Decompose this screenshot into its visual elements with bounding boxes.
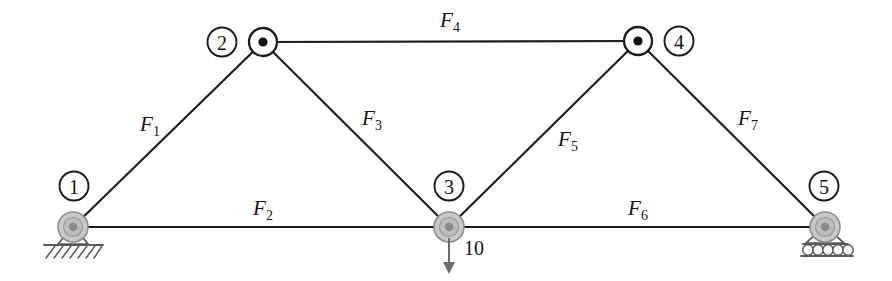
- truss-members: [73, 41, 825, 227]
- node-label-1-text: 1: [69, 176, 79, 198]
- member-label-F6-base: F: [627, 196, 641, 220]
- node-4-joint: [624, 27, 652, 55]
- roller-ball: [813, 245, 823, 255]
- node-label-4: 4: [665, 27, 694, 56]
- member-label-F6-sub: 6: [641, 208, 648, 223]
- node-label-5: 5: [810, 172, 839, 201]
- member-label-F4-base: F: [439, 8, 453, 32]
- member-label-F7: F7: [737, 106, 758, 133]
- node-label-2: 2: [208, 28, 237, 57]
- member-label-F2-base: F: [252, 196, 266, 220]
- roller-ball: [843, 245, 853, 255]
- member-F1: [73, 42, 263, 227]
- member-label-F1-base: F: [139, 112, 153, 136]
- member-label-F2: F2: [252, 196, 273, 223]
- load-magnitude-label: 10: [464, 237, 484, 259]
- node-label-3-text: 3: [444, 176, 454, 198]
- member-label-F2-sub: 2: [266, 208, 273, 223]
- member-label-F7-sub: 7: [751, 118, 758, 133]
- node-label-5-text: 5: [819, 176, 829, 198]
- truss-diagram: 1 2 3 4 5 F1 F2 F3 F4 F5 F6 F7: [0, 0, 892, 281]
- member-label-F6: F6: [627, 196, 648, 223]
- member-F4: [263, 41, 638, 42]
- node-label-1: 1: [60, 172, 89, 201]
- member-label-F5-base: F: [557, 127, 571, 151]
- roller-ball: [823, 245, 833, 255]
- roller-ball: [803, 245, 813, 255]
- member-label-F3-base: F: [361, 106, 375, 130]
- member-label-F5-sub: 5: [571, 139, 578, 154]
- node-label-3: 3: [435, 172, 464, 201]
- node-1-pin-joint: [58, 212, 88, 242]
- member-label-F4: F4: [439, 8, 460, 35]
- node-3-joint: [434, 212, 464, 242]
- load-arrow-head-icon: [443, 262, 455, 274]
- member-F7: [638, 41, 825, 227]
- member-label-F7-base: F: [737, 106, 751, 130]
- member-label-F3: F3: [361, 106, 382, 133]
- node-5-roller-joint: [810, 212, 840, 242]
- load-arrow-node-3: [443, 238, 455, 274]
- node-label-4-text: 4: [674, 31, 684, 53]
- node-label-2-text: 2: [217, 32, 227, 54]
- member-label-F1: F1: [139, 112, 160, 139]
- member-F5: [449, 41, 638, 227]
- node-2-joint: [249, 28, 277, 56]
- member-label-F4-sub: 4: [453, 20, 460, 35]
- member-label-F3-sub: 3: [375, 118, 382, 133]
- member-label-F5: F5: [557, 127, 578, 154]
- roller-ball: [833, 245, 843, 255]
- member-F3: [263, 42, 449, 227]
- member-label-F1-sub: 1: [153, 124, 160, 139]
